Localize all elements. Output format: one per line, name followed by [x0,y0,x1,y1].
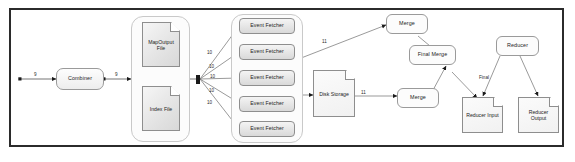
node-merge-bottom-label: Merge [410,95,426,101]
diagram-canvas: Combiner 9 9 MapOutput File Index File E… [0,0,575,162]
node-final-merge[interactable]: Final Merge [409,45,456,65]
node-event-fetcher-1[interactable]: Event Fetcher [239,18,295,34]
node-reducer-output[interactable]: Reducer Output [518,97,559,133]
node-event-fetcher-5[interactable]: Event Fetcher [239,121,295,137]
node-event-fetcher-3[interactable]: Event Fetcher [239,70,295,86]
node-disk-storage-label: Disk Storage [317,91,351,97]
node-reducer-label: Reducer [507,43,528,49]
node-merge-top[interactable]: Merge [386,14,428,34]
node-final-merge-label: Final Merge [418,52,448,58]
fanout-hub [196,75,200,84]
edge-label-fetchers-to-merge-top: 11 [322,39,327,44]
node-index-file-label: Index File [148,106,175,112]
node-reducer-input[interactable]: Reducer Input [462,97,503,133]
node-map-output-file[interactable]: MapOutput File [142,22,180,67]
edge-label-hub-to-fetcher-2: 10 [209,64,214,69]
node-reducer-input-label: Reducer Input [464,112,501,118]
node-map-output-file-label: MapOutput File [143,39,179,51]
node-event-fetcher-2[interactable]: Event Fetcher [239,44,295,60]
node-disk-storage[interactable]: Disk Storage [313,70,355,117]
node-event-fetcher-1-label: Event Fetcher [250,23,284,28]
node-combiner[interactable]: Combiner [56,68,104,90]
node-event-fetcher-3-label: Event Fetcher [250,75,284,80]
edge-label-start-to-combiner: 9 [34,72,37,77]
node-reducer[interactable]: Reducer [496,36,539,56]
node-event-fetcher-4[interactable]: Event Fetcher [239,96,295,112]
edge-label-hub-to-fetcher-3: 10 [210,74,215,79]
node-merge-bottom[interactable]: Merge [397,88,439,108]
node-event-fetcher-2-label: Event Fetcher [250,49,284,54]
node-index-file[interactable]: Index File [142,86,180,131]
node-event-fetcher-4-label: Event Fetcher [250,101,284,106]
node-combiner-label: Combiner [68,76,92,82]
edge-label-reducer-to-input: Final [479,75,489,80]
edge-label-hub-to-fetcher-4: 10 [209,88,214,93]
node-event-fetcher-5-label: Event Fetcher [250,126,284,131]
edge-label-hub-to-fetcher-5: 10 [207,100,212,105]
node-reducer-output-label: Reducer Output [519,109,558,121]
edge-label-combiner-to-files: 9 [115,72,118,77]
edge-label-disk-to-merge-bottom: 11 [361,90,366,95]
node-merge-top-label: Merge [399,21,415,27]
edge-label-hub-to-fetcher-1: 10 [207,50,212,55]
